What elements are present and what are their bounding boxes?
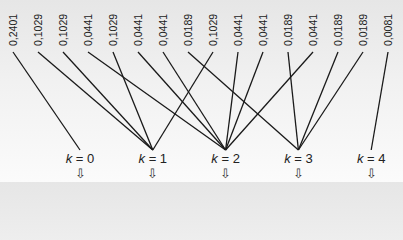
connector-line [163,52,226,150]
outcome-probability-label: 0,0189 [357,14,369,46]
connector-line [288,52,298,150]
connector-line [298,52,363,150]
outcome-probability-label: 0,0189 [282,14,294,46]
k-value-label: k = 1 [139,151,168,166]
connector-line [138,52,226,150]
outcome-probability-label: 0,0441 [307,14,319,46]
outcome-probability-label: 0,0441 [257,14,269,46]
outcome-probability-label: 0,2401 [7,14,19,46]
connector-line [226,52,313,150]
outcome-probability-label: 0,0441 [232,14,244,46]
k-value-label: k = 2 [211,151,240,166]
connector-line [298,52,338,150]
k-groups: k = 0⇩k = 1⇩k = 2⇩k = 3⇩k = 4⇩ [66,151,386,181]
k-value-label: k = 4 [357,151,386,166]
outcome-probability-label: 0,1029 [207,14,219,46]
outcome-probability-label: 0,1029 [32,14,44,46]
outcome-probability-label: 0,0441 [82,14,94,46]
outcome-probability-label: 0,0441 [157,14,169,46]
outcome-probability-label: 0,1029 [107,14,119,46]
outcome-probability-label: 0,1029 [57,14,69,46]
connector-line [38,52,153,150]
down-arrow-icon: ⇩ [220,166,231,181]
connector-line [371,52,388,150]
connector-lines [13,52,388,150]
connector-line [113,52,153,150]
probability-tree-diagram: 0,24010,10290,10290,04410,10290,04410,04… [0,0,403,182]
down-arrow-icon: ⇩ [366,166,377,181]
down-arrow-icon: ⇩ [147,166,158,181]
k-value-label: k = 0 [66,151,95,166]
outcome-probability-label: 0,0081 [382,14,394,46]
k-value-label: k = 3 [284,151,313,166]
outcome-labels: 0,24010,10290,10290,04410,10290,04410,04… [7,14,394,46]
down-arrow-icon: ⇩ [75,166,86,181]
outcome-probability-label: 0,0189 [332,14,344,46]
down-arrow-icon: ⇩ [293,166,304,181]
outcome-probability-label: 0,0189 [182,14,194,46]
outcome-probability-label: 0,0441 [132,14,144,46]
connector-line [13,52,80,150]
